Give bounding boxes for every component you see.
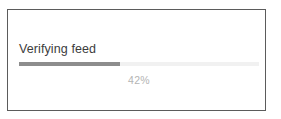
progress-bar-fill <box>19 62 120 66</box>
status-label: Verifying feed <box>19 42 96 57</box>
progress-percent-label: 42% <box>128 74 150 87</box>
screen-root: Verifying feed 42% <box>0 0 281 119</box>
progress-bar <box>19 62 259 66</box>
status-card: Verifying feed 42% <box>7 9 266 111</box>
